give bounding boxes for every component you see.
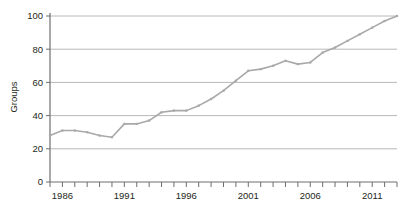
data-point-marker <box>98 134 100 136</box>
data-point-marker <box>297 63 299 65</box>
data-point-marker <box>371 27 373 29</box>
data-point-marker <box>86 131 88 133</box>
y-tick-label: 0 <box>38 176 43 187</box>
data-point-marker <box>74 129 76 131</box>
data-point-marker <box>384 20 386 22</box>
data-point-marker <box>222 90 224 92</box>
data-point-marker <box>284 60 286 62</box>
data-point-marker <box>334 46 336 48</box>
x-tick-label: 2001 <box>238 190 259 201</box>
data-point-marker <box>198 105 200 107</box>
x-tick-label: 1986 <box>52 190 73 201</box>
data-point-marker <box>111 136 113 138</box>
data-point-marker <box>173 110 175 112</box>
data-point-marker <box>160 111 162 113</box>
data-point-markers-group <box>49 15 398 138</box>
data-point-marker <box>210 98 212 100</box>
gridlines-group <box>50 16 397 149</box>
y-axis-title: Groups <box>8 81 19 112</box>
y-tick-label: 20 <box>32 143 43 154</box>
x-tick-label: 1991 <box>114 190 135 201</box>
data-point-marker <box>185 110 187 112</box>
data-point-marker <box>123 123 125 125</box>
data-point-marker <box>235 80 237 82</box>
data-point-marker <box>346 40 348 42</box>
x-tick-label: 1996 <box>176 190 197 201</box>
data-point-marker <box>359 33 361 35</box>
data-series-line <box>50 16 397 137</box>
data-point-marker <box>247 70 249 72</box>
y-tick-label: 100 <box>27 10 43 21</box>
y-tick-label: 80 <box>32 44 43 55</box>
x-tick-label: 2011 <box>362 190 382 201</box>
x-axis-ticks-group: 198619911996200120062011 <box>50 182 397 201</box>
data-point-marker <box>61 129 63 131</box>
data-point-marker <box>49 134 51 136</box>
y-tick-label: 40 <box>32 110 43 121</box>
data-point-marker <box>322 51 324 53</box>
data-point-marker <box>309 61 311 63</box>
data-point-marker <box>136 123 138 125</box>
y-axis-ticks-group: 020406080100 <box>27 10 50 187</box>
chart-container: 020406080100 198619911996200120062011 Gr… <box>0 0 402 213</box>
data-point-marker <box>272 65 274 67</box>
x-tick-label: 2006 <box>300 190 321 201</box>
y-tick-label: 60 <box>32 77 43 88</box>
data-point-marker <box>396 15 398 17</box>
data-point-marker <box>148 119 150 121</box>
line-chart: 020406080100 198619911996200120062011 Gr… <box>0 0 402 213</box>
data-point-marker <box>260 68 262 70</box>
